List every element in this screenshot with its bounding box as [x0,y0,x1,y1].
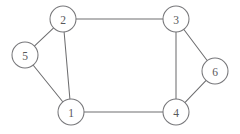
graph-node-label-3: 3 [173,14,179,26]
graph-edge-3-6 [184,29,208,61]
edges-layer [33,19,208,112]
graph-edge-2-1 [64,31,70,99]
graph-canvas: 123456 [0,0,240,134]
graph-node-2[interactable]: 2 [50,6,76,32]
graph-node-label-6: 6 [212,66,218,78]
graph-node-label-1: 1 [68,107,74,119]
graph-node-6[interactable]: 6 [202,58,228,84]
graph-node-5[interactable]: 5 [12,42,38,68]
graph-node-label-5: 5 [22,50,28,62]
graph-edge-2-5 [34,28,54,47]
graph-edge-6-4 [185,80,207,103]
nodes-layer: 123456 [12,6,228,125]
graph-node-3[interactable]: 3 [163,6,189,32]
graph-node-1[interactable]: 1 [58,99,84,125]
graph-diagram: 123456 [0,0,240,134]
graph-edge-5-1 [33,65,63,103]
graph-node-label-4: 4 [173,107,179,119]
graph-node-4[interactable]: 4 [163,99,189,125]
graph-node-label-2: 2 [60,14,66,26]
